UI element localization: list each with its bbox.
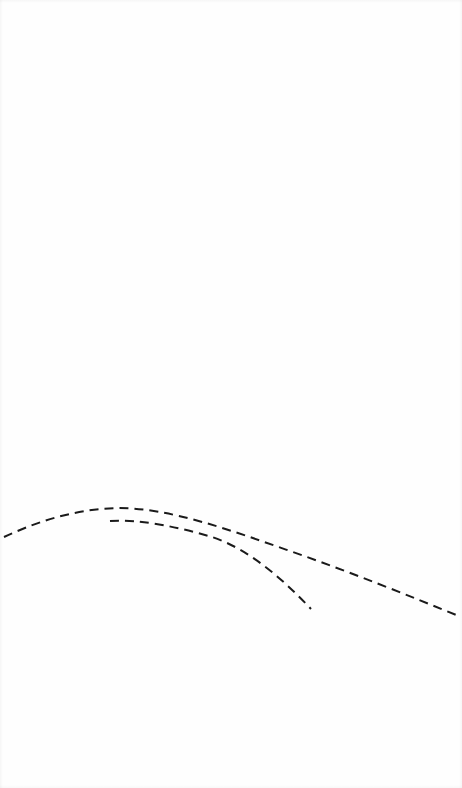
plot-background <box>0 0 462 788</box>
curve-plot-svg <box>0 0 462 788</box>
figure-canvas <box>0 0 462 788</box>
